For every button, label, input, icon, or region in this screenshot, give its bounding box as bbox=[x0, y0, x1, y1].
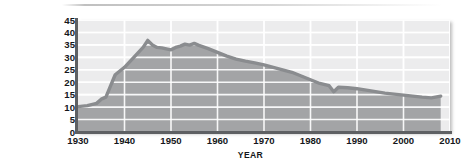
y-tick-label: 30 bbox=[56, 53, 75, 62]
x-tick-label: 1950 bbox=[151, 135, 191, 146]
top-rule-divider bbox=[62, 4, 442, 6]
plot-area bbox=[78, 20, 450, 132]
x-tick-label: 1990 bbox=[337, 135, 377, 146]
y-tick-label: 35 bbox=[56, 40, 75, 49]
x-tick-label: 1970 bbox=[244, 135, 284, 146]
x-tick-label: 1980 bbox=[291, 135, 331, 146]
y-tick-label: 15 bbox=[56, 90, 75, 99]
x-axis-ticks: 193019401950196019701980199020002010 bbox=[0, 135, 471, 149]
x-tick-label: 1960 bbox=[198, 135, 238, 146]
x-tick-label: 2010 bbox=[430, 135, 470, 146]
y-tick-label: 45 bbox=[56, 16, 75, 25]
x-axis-label: YEAR bbox=[0, 150, 471, 160]
chart-plot-svg bbox=[78, 20, 450, 132]
chart-figure: PERCENTAGE OF NONFARM WORKERS IN UNIONS … bbox=[0, 0, 471, 168]
x-axis-label-text: YEAR bbox=[238, 150, 263, 160]
y-tick-label: 25 bbox=[56, 65, 75, 74]
x-tick-label: 2000 bbox=[384, 135, 424, 146]
x-tick-label: 1940 bbox=[105, 135, 145, 146]
y-tick-label: 20 bbox=[56, 78, 75, 87]
x-tick-label: 1930 bbox=[58, 135, 98, 146]
y-tick-label: 40 bbox=[56, 28, 75, 37]
y-tick-label: 10 bbox=[56, 103, 75, 112]
y-axis-spine bbox=[75, 18, 78, 134]
area-fill bbox=[78, 40, 441, 132]
x-axis-spine bbox=[75, 131, 452, 134]
y-tick-label: 5 bbox=[56, 115, 75, 124]
y-axis-ticks: 051015202530354045 bbox=[56, 15, 75, 137]
